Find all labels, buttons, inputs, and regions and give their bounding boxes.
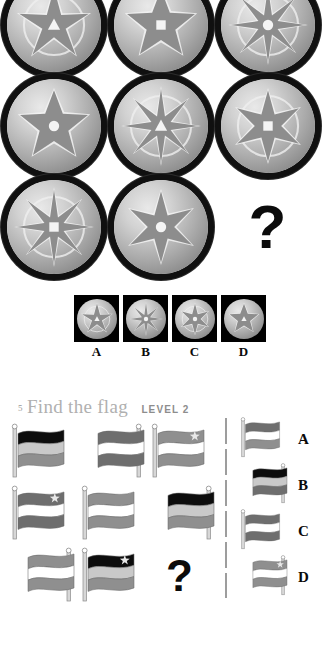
- flag-cell[interactable]: [8, 484, 78, 546]
- flag-label-a: A: [298, 431, 309, 448]
- flag-puzzle-header: 5 Find the flag LEVEL 2: [18, 396, 190, 418]
- medallion-option-b-art: [126, 299, 166, 339]
- medallion-cell[interactable]: [107, 75, 214, 176]
- flag-cell[interactable]: [78, 484, 148, 546]
- flag-f21[interactable]: [8, 484, 78, 546]
- medallion-m21[interactable]: [7, 79, 101, 173]
- flag-option-b-slot[interactable]: [236, 462, 292, 508]
- compass-medallion-puzzle: ? A B C D: [0, 0, 336, 380]
- flag-f12[interactable]: [78, 422, 148, 484]
- medallion-option-d[interactable]: [221, 295, 266, 342]
- flag-option-a-slot[interactable]: [236, 416, 292, 462]
- flag-label-c: C: [298, 523, 309, 540]
- medallion-option-d-art: [224, 299, 264, 339]
- flag-cell[interactable]: [8, 422, 78, 484]
- medallion-m12[interactable]: [114, 0, 208, 72]
- flag-f32[interactable]: [78, 546, 148, 608]
- flag-option-c[interactable]: C: [236, 508, 309, 554]
- flag-missing-cell[interactable]: ?: [148, 546, 218, 608]
- flag-option-a[interactable]: A: [236, 416, 309, 462]
- medallion-option-b[interactable]: [123, 295, 168, 342]
- flag-matrix: ?: [8, 422, 218, 608]
- flag-row: [8, 484, 218, 546]
- medallion-matrix: ?: [0, 0, 336, 277]
- medallion-answer-labels: A B C D: [74, 344, 266, 360]
- flag-puzzle-number: 5: [18, 403, 23, 413]
- medallion-option-c-art: [175, 299, 215, 339]
- flag-option-b-art: [236, 462, 292, 508]
- flag-label-b: B: [298, 477, 308, 494]
- medallion-m11[interactable]: [7, 0, 101, 72]
- medallion-label-b: B: [123, 344, 168, 360]
- flag-option-c-art: [236, 508, 292, 554]
- medallion-m13[interactable]: [221, 0, 315, 72]
- medallion-option-a-art: [77, 299, 117, 339]
- flag-section-divider: [225, 418, 227, 598]
- medallion-cell[interactable]: [214, 0, 321, 75]
- flag-cell[interactable]: [8, 546, 78, 608]
- flag-label-d: D: [298, 569, 309, 586]
- flag-puzzle-title: Find the flag: [27, 396, 128, 417]
- flag-option-d-art: [236, 554, 292, 600]
- flag-option-d[interactable]: D: [236, 554, 309, 600]
- medallion-row: ?: [0, 176, 336, 277]
- medallion-cell[interactable]: [107, 0, 214, 75]
- flag-f13[interactable]: [148, 422, 218, 484]
- medallion-cell[interactable]: [0, 176, 107, 277]
- flag-option-a-art: [236, 416, 292, 462]
- medallion-label-c: C: [172, 344, 217, 360]
- flag-f31[interactable]: [8, 546, 78, 608]
- flag-option-c-slot[interactable]: [236, 508, 292, 554]
- medallion-label-a: A: [74, 344, 119, 360]
- flag-cell[interactable]: [148, 422, 218, 484]
- find-the-flag-puzzle: 5 Find the flag LEVEL 2: [0, 388, 336, 655]
- flag-option-b[interactable]: B: [236, 462, 309, 508]
- flag-puzzle-level: LEVEL 2: [141, 404, 189, 415]
- medallion-cell[interactable]: [0, 0, 107, 75]
- flag-f11[interactable]: [8, 422, 78, 484]
- medallion-cell[interactable]: [214, 75, 321, 176]
- medallion-cell[interactable]: [0, 75, 107, 176]
- medallion-option-c[interactable]: [172, 295, 217, 342]
- medallion-m32[interactable]: [114, 180, 208, 274]
- flag-row: [8, 422, 218, 484]
- medallion-row: [0, 0, 336, 75]
- flag-cell[interactable]: [78, 546, 148, 608]
- flag-answer-options: A B C D: [236, 416, 309, 600]
- medallion-label-d: D: [221, 344, 266, 360]
- medallion-m31[interactable]: [7, 180, 101, 274]
- medallion-question-mark: ?: [249, 196, 287, 258]
- flag-cell[interactable]: [148, 484, 218, 546]
- medallion-option-a[interactable]: [74, 295, 119, 342]
- medallion-missing-cell[interactable]: ?: [214, 176, 321, 277]
- flag-f22[interactable]: [78, 484, 148, 546]
- flag-question-mark: ?: [166, 554, 193, 598]
- flag-row: ?: [8, 546, 218, 608]
- medallion-row: [0, 75, 336, 176]
- medallion-m23[interactable]: [221, 79, 315, 173]
- medallion-m22[interactable]: [114, 79, 208, 173]
- medallion-answer-options: [74, 295, 266, 342]
- flag-option-d-slot[interactable]: [236, 554, 292, 600]
- flag-cell[interactable]: [78, 422, 148, 484]
- medallion-cell[interactable]: [107, 176, 214, 277]
- flag-f23[interactable]: [148, 484, 218, 546]
